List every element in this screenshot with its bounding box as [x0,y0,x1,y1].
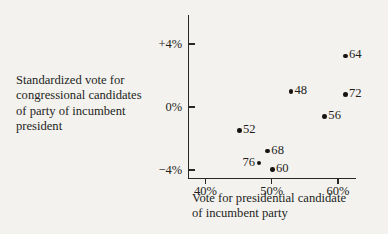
y-axis-tick-label: −4% [30,164,182,177]
y-axis-title-line-4: president [16,119,184,134]
y-axis-title: Standardized vote for congressional cand… [16,73,184,135]
data-point-marker [289,89,294,94]
y-axis-tick [189,106,195,107]
y-axis-title-line-3: of party of incumbent [16,104,184,119]
data-point-label: 56 [328,109,341,122]
data-point-label: 64 [349,48,362,61]
y-axis-tick [189,169,195,170]
data-point-marker [257,161,262,166]
data-point-label: 52 [243,123,256,136]
y-axis-title-line-2: congressional candidates [16,88,184,103]
x-axis-line [189,178,356,179]
data-point-marker [322,114,327,119]
data-point-label: 76 [242,156,255,169]
data-point-label: 48 [295,84,308,97]
data-point-marker [237,128,242,133]
data-point-label: 68 [271,144,284,157]
x-axis-title: Vote for presidential candidate of incum… [192,191,388,222]
scatter-plot-figure: +4%0%−4% 40%50%60% 6472485652687660 Stan… [0,0,388,234]
data-point-marker [343,92,348,97]
y-axis-tick [189,43,195,44]
x-axis-title-line-1: Vote for presidential candidate [192,191,388,206]
y-axis-tick-label: +4% [30,38,182,51]
data-point-label: 60 [276,162,289,175]
x-axis-title-line-2: of incumbent party [192,206,388,221]
y-axis-title-line-1: Standardized vote for [16,73,184,88]
data-point-marker [270,167,275,172]
data-point-marker [265,149,270,154]
y-axis-line [188,15,189,179]
data-point-label: 72 [349,87,362,100]
data-point-marker [343,54,348,59]
